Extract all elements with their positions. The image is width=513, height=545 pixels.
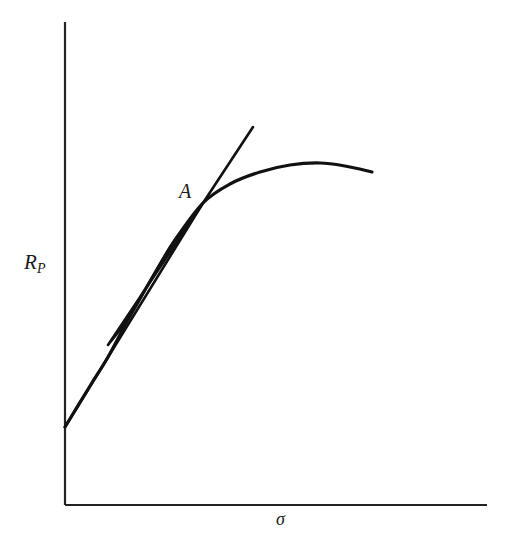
y-axis-label: RP <box>24 250 46 277</box>
tangency-point-label: A <box>179 180 191 203</box>
chart-plot-area <box>0 0 513 545</box>
frontier-curve <box>65 163 372 427</box>
x-axis-label: σ <box>276 509 285 530</box>
chart-figure: RP σ A <box>0 0 513 545</box>
y-axis-label-subscript: P <box>37 261 46 276</box>
y-axis-label-base: R <box>24 250 37 274</box>
